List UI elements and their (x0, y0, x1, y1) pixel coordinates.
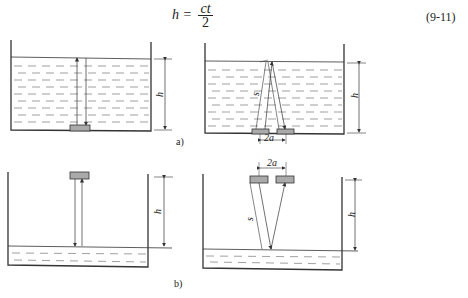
spacing-label-a: 2a (264, 132, 274, 143)
path-label-b: s (244, 217, 255, 221)
tank-b-left (8, 172, 173, 267)
height-label-b-left: h (152, 209, 163, 214)
tank-a-right (205, 43, 366, 144)
diagram: h s 2a h (0, 0, 468, 298)
transducer-icon (70, 125, 90, 131)
path-label-a: s (250, 92, 261, 96)
height-label-a-right: h (349, 93, 360, 98)
caption-b: b) (174, 278, 182, 289)
tank-b-right (203, 162, 362, 270)
height-label-b-right: h (346, 212, 357, 217)
tank-a-left (11, 40, 172, 131)
caption-a: a) (176, 136, 184, 147)
spacing-label-b: 2a (267, 157, 277, 168)
height-label-a-left: h (154, 92, 165, 97)
